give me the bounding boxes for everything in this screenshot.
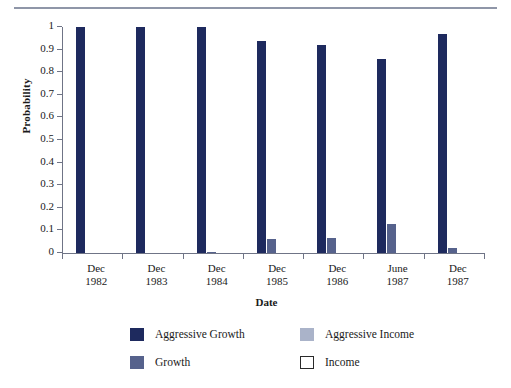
plot-area: 10.90.80.70.60.50.40.30.20.10 xyxy=(62,27,484,253)
y-axis-tick-mark xyxy=(57,139,62,140)
legend-row: GrowthIncome xyxy=(130,348,470,376)
x-axis-tick-mark xyxy=(424,253,425,259)
bar-growth[interactable] xyxy=(327,238,336,253)
legend-label-growth: Growth xyxy=(155,356,190,368)
x-axis-tick-mark xyxy=(303,253,304,259)
x-axis-tick-mark xyxy=(363,253,364,259)
y-axis-tick-mark xyxy=(57,71,62,72)
x-axis-title: Date xyxy=(0,296,511,308)
y-axis-tick-label: 0 xyxy=(49,245,55,257)
y-axis-tick-label: 0.1 xyxy=(40,222,54,234)
bar-growth[interactable] xyxy=(448,248,457,253)
y-axis-tick-label: 0.9 xyxy=(40,42,54,54)
x-axis-tick-mark xyxy=(183,253,184,259)
y-axis-tick-mark xyxy=(57,229,62,230)
y-axis-tick-label: 0.7 xyxy=(40,87,54,99)
header-divider-rule xyxy=(14,7,497,9)
bar-aggressive-growth[interactable] xyxy=(197,27,206,253)
bar-growth[interactable] xyxy=(267,239,276,253)
legend-item-income[interactable]: Income xyxy=(300,356,470,369)
legend-label-aggressive-income: Aggressive Income xyxy=(325,328,414,340)
y-axis-tick-mark xyxy=(57,26,62,27)
y-axis-tick-mark xyxy=(57,162,62,163)
x-axis-tick-label-line: 1987 xyxy=(423,275,493,288)
x-axis-tick-label: Dec1987 xyxy=(423,262,493,288)
legend-item-aggressive-income[interactable]: Aggressive Income xyxy=(300,328,470,341)
bar-aggressive-growth[interactable] xyxy=(76,27,85,253)
y-axis-tick-mark xyxy=(57,116,62,117)
bar-growth[interactable] xyxy=(207,252,216,253)
legend-item-growth[interactable]: Growth xyxy=(130,356,300,369)
bar-aggressive-growth[interactable] xyxy=(377,59,386,253)
y-axis-tick-mark xyxy=(57,49,62,50)
bar-aggressive-growth[interactable] xyxy=(438,34,447,253)
x-axis-tick-mark xyxy=(243,253,244,259)
x-axis-line xyxy=(62,253,485,254)
x-axis-tick-label-line: Dec xyxy=(423,262,493,275)
y-axis-tick-label: 0.2 xyxy=(40,200,54,212)
bar-aggressive-growth[interactable] xyxy=(317,45,326,253)
x-axis-tick-mark xyxy=(484,253,485,259)
x-axis-tick-mark xyxy=(122,253,123,259)
y-axis-tick-mark xyxy=(57,94,62,95)
y-axis-tick-label: 0.4 xyxy=(40,155,54,167)
legend-swatch-income xyxy=(300,356,314,369)
y-axis-tick-label: 0.6 xyxy=(40,109,54,121)
legend-item-aggressive-growth[interactable]: Aggressive Growth xyxy=(130,328,300,341)
y-axis-title: Probability xyxy=(20,46,32,166)
probability-bar-chart-figure: Probability 10.90.80.70.60.50.40.30.20.1… xyxy=(0,0,511,388)
y-axis-tick-mark xyxy=(57,207,62,208)
legend-row: Aggressive GrowthAggressive Income xyxy=(130,320,470,348)
legend-swatch-aggressive-income xyxy=(300,328,314,341)
bar-aggressive-growth[interactable] xyxy=(136,27,145,253)
bar-growth[interactable] xyxy=(387,224,396,253)
legend-label-income: Income xyxy=(325,356,359,368)
y-axis-tick-label: 0.8 xyxy=(40,64,54,76)
y-axis-tick-label: 0.3 xyxy=(40,177,54,189)
legend-label-aggressive-growth: Aggressive Growth xyxy=(155,328,245,340)
x-axis-tick-mark xyxy=(62,253,63,259)
y-axis-tick-mark xyxy=(57,184,62,185)
y-axis-tick-label: 1 xyxy=(49,19,55,31)
legend-swatch-aggressive-growth xyxy=(130,328,144,341)
chart-legend: Aggressive GrowthAggressive IncomeGrowth… xyxy=(130,320,470,376)
legend-swatch-growth xyxy=(130,356,144,369)
bar-aggressive-growth[interactable] xyxy=(257,41,266,253)
y-axis-tick-label: 0.5 xyxy=(40,132,54,144)
